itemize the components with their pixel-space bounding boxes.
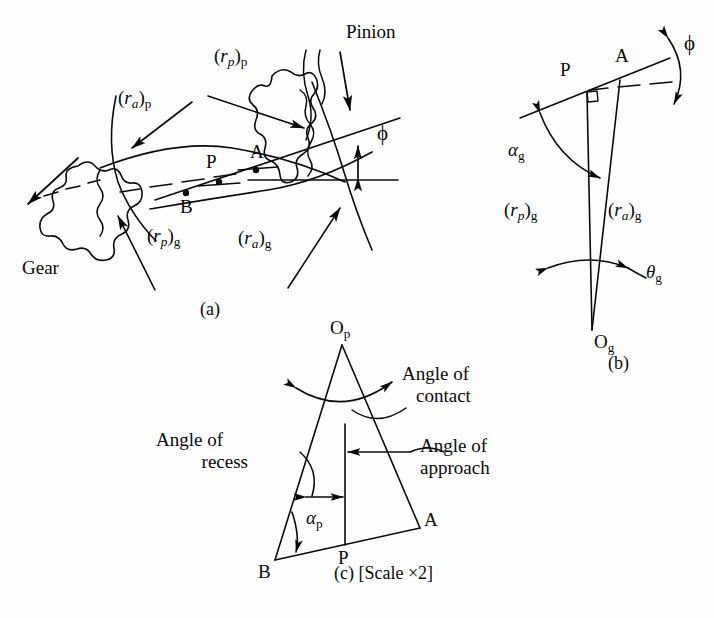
- point-A-label-b: A: [615, 46, 629, 67]
- angle-of-recess-line1: Angle of: [156, 430, 223, 451]
- alpha-g-arc: [540, 113, 600, 178]
- tangent-line-b: [520, 58, 670, 118]
- phi-label-a: ϕ: [377, 122, 388, 145]
- rp-gear-label-b: (rp)g: [504, 200, 537, 223]
- point-P-label-a: P: [206, 152, 217, 173]
- theta-g-arc: [548, 260, 628, 268]
- right-angle-mark-b: [587, 91, 598, 102]
- ra-gear-label: (ra)g: [238, 228, 271, 251]
- point-A-label-a: A: [250, 142, 264, 163]
- figure-canvas: Pinion Gear (rp)p (ra)p (rp)g (ra)g ϕ A …: [0, 0, 714, 618]
- gear-addendum-arc: [312, 82, 372, 250]
- panel-a-caption: (a): [200, 300, 220, 319]
- alpha-g-label: αg: [508, 140, 525, 163]
- angle-of-contact-line2: contact: [416, 386, 471, 407]
- pinion-label: Pinion: [346, 22, 396, 43]
- angle-of-contact-line1: Angle of: [402, 364, 469, 385]
- pinion-addendum-arc: [111, 96, 156, 241]
- angle-of-recess-line2: recess: [156, 452, 248, 473]
- gear-tooth-profile: [40, 162, 142, 260]
- point-A-label-c: A: [424, 510, 438, 531]
- rp-pinion-leader: [208, 96, 304, 128]
- angle-of-approach-line1: Angle of: [420, 436, 487, 457]
- theta-g-leader: [628, 268, 646, 278]
- point-P-label-b: P: [560, 60, 571, 81]
- ra-gear-leader: [288, 208, 340, 288]
- angle-of-approach-line2: approach: [420, 458, 490, 479]
- angle-of-contact-leader: [352, 408, 406, 419]
- point-Op-label-c: Op: [330, 318, 350, 341]
- rp-gear-label: (rp)g: [147, 226, 180, 249]
- diagram-vector-layer: [0, 0, 714, 618]
- angle-of-contact-arc: [296, 382, 392, 402]
- alpha-p-arc: [292, 512, 297, 552]
- dashed-horizontal-b: [590, 82, 672, 90]
- point-A-dot: [253, 167, 259, 173]
- phi-arc-b: [668, 38, 681, 104]
- panel-b-caption: (b): [608, 354, 629, 373]
- panel-c-caption: (c) [Scale ×2]: [334, 564, 433, 583]
- ra-gear-label-b: (ra)g: [608, 200, 641, 223]
- pinion-label-leader-2: [318, 50, 325, 104]
- point-Og-label-b: Og: [594, 332, 614, 355]
- ra-pinion-label: (ra)p: [118, 88, 151, 111]
- phi-label-b: ϕ: [684, 32, 695, 55]
- point-B-label-a: B: [180, 197, 193, 218]
- gear-label: Gear: [22, 258, 59, 279]
- rp-gear-line-b: [587, 92, 592, 330]
- point-P-dot: [216, 179, 222, 185]
- theta-g-label: θg: [646, 262, 662, 285]
- point-B-label-c: B: [258, 562, 271, 583]
- panel-b-graphics: [520, 38, 681, 330]
- rp-pinion-label: (rp)p: [214, 46, 247, 69]
- alpha-p-label: αp: [306, 508, 323, 531]
- pinion-rotation-arrow: [340, 52, 350, 110]
